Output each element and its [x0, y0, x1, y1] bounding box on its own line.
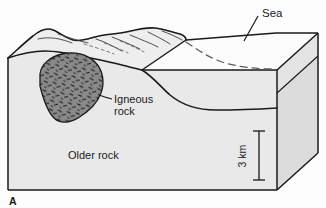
igneous-rock-label-line1: Igneous — [114, 93, 154, 105]
older-rock-label: Older rock — [68, 149, 119, 161]
panel-label: A — [9, 195, 17, 207]
sea-label: Sea — [262, 7, 283, 19]
geologic-block-diagram: Sea Igneous rock Older rock 3 km A — [0, 0, 326, 208]
igneous-rock-label-line2: rock — [114, 105, 135, 117]
scale-bar-label: 3 km — [236, 144, 248, 167]
block-diagram-svg: Sea Igneous rock Older rock 3 km A — [0, 0, 326, 208]
